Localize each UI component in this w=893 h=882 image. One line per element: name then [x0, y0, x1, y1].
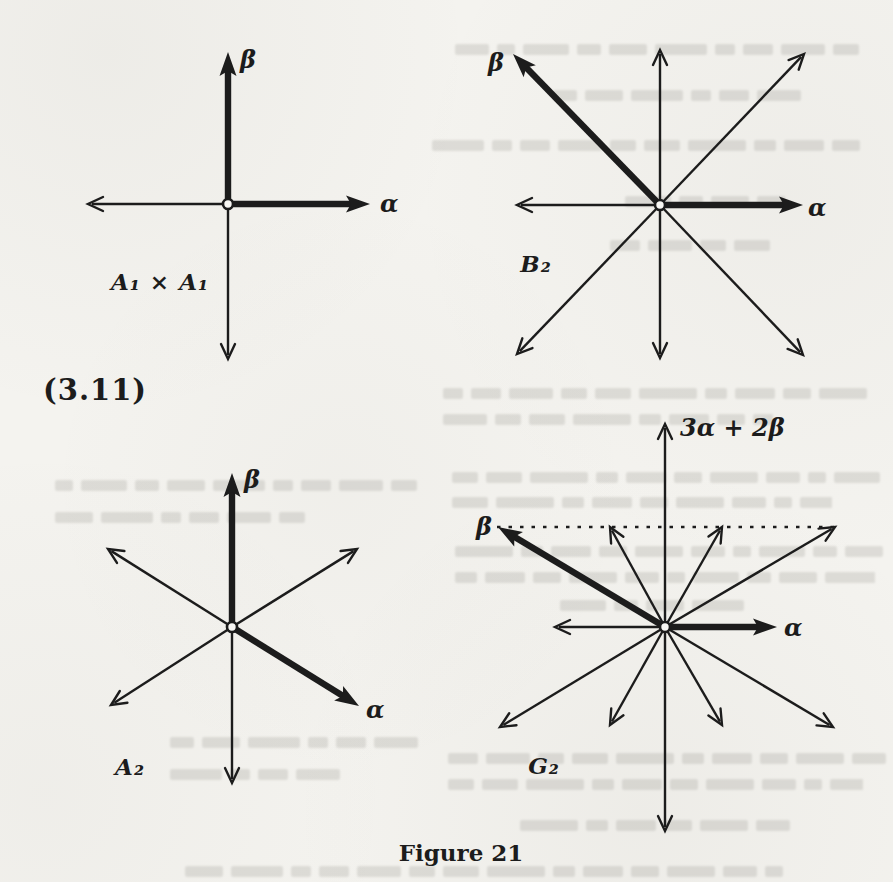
figure-caption: Figure 21 — [399, 839, 524, 866]
root-arrow-alpha — [232, 627, 346, 698]
root-arrow-beta — [523, 65, 660, 205]
root-arrow-root — [660, 57, 801, 205]
origin-circle-icon — [223, 199, 233, 209]
root-arrow-root — [111, 551, 232, 627]
origin-circle-icon — [655, 200, 665, 210]
root-arrow-root — [665, 529, 832, 627]
root-arrow-root — [114, 627, 232, 703]
root-arrow-root — [520, 205, 660, 351]
root-arrow-root — [232, 551, 354, 627]
root-arrow-root — [612, 627, 665, 722]
root-arrow-root — [665, 627, 720, 722]
equation-number: (3.11) — [43, 373, 147, 407]
root-arrow-root — [660, 205, 800, 352]
origin-circle-icon — [227, 622, 237, 632]
root-system-figure-canvas — [0, 0, 893, 882]
root-arrow-beta — [511, 535, 665, 627]
origin-circle-icon — [660, 622, 670, 632]
book-page-scan: A₁ × A₁βαB₂βαA₂βαG₂3α + 2ββα (3.11) Figu… — [0, 0, 893, 882]
root-arrow-root — [665, 530, 720, 627]
root-arrow-root — [665, 627, 830, 725]
root-arrow-root — [503, 627, 665, 725]
